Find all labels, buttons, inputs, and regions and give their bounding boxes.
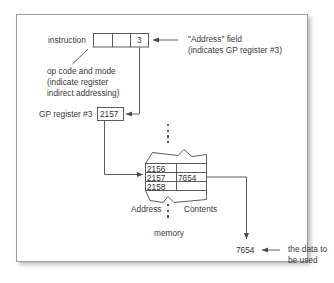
memory-block-torn-top [146, 150, 207, 164]
memory-ellipsis-bottom [167, 204, 169, 221]
instruction-address-field-value: 3 [137, 36, 142, 45]
opcode-leader [73, 49, 89, 64]
memory-row-1-contents: 7654 [178, 174, 196, 183]
register-label: GP register #3 [39, 109, 92, 119]
register-to-memory-path [105, 121, 144, 175]
opcode-note-line1: op code and mode [47, 66, 116, 76]
opcode-note-line2: (indicate register [47, 77, 108, 87]
opcode-note-line3: indirect addressing) [47, 88, 119, 98]
address-to-register-path [126, 48, 140, 115]
result-note-line1: the data to [288, 244, 327, 254]
result-value: 7654 [236, 246, 254, 255]
memory-ellipsis-top [167, 124, 169, 146]
memory-block-torn-bottom [146, 191, 207, 203]
figure-canvas: instruction 3 "Address" field (indicates… [0, 0, 334, 283]
memory-row-2-address: 2158 [147, 183, 165, 192]
memory-contents-header: Contents [184, 204, 217, 214]
address-field-note-line1: "Address" field [188, 34, 242, 44]
register-value: 2157 [100, 110, 118, 119]
address-field-note-line2: (indicates GP register #3) [188, 45, 282, 55]
memory-caption: memory [154, 228, 184, 238]
instruction-label: instruction [48, 35, 86, 45]
result-note-line2: be used [288, 255, 318, 265]
memory-address-header: Address [131, 204, 161, 214]
